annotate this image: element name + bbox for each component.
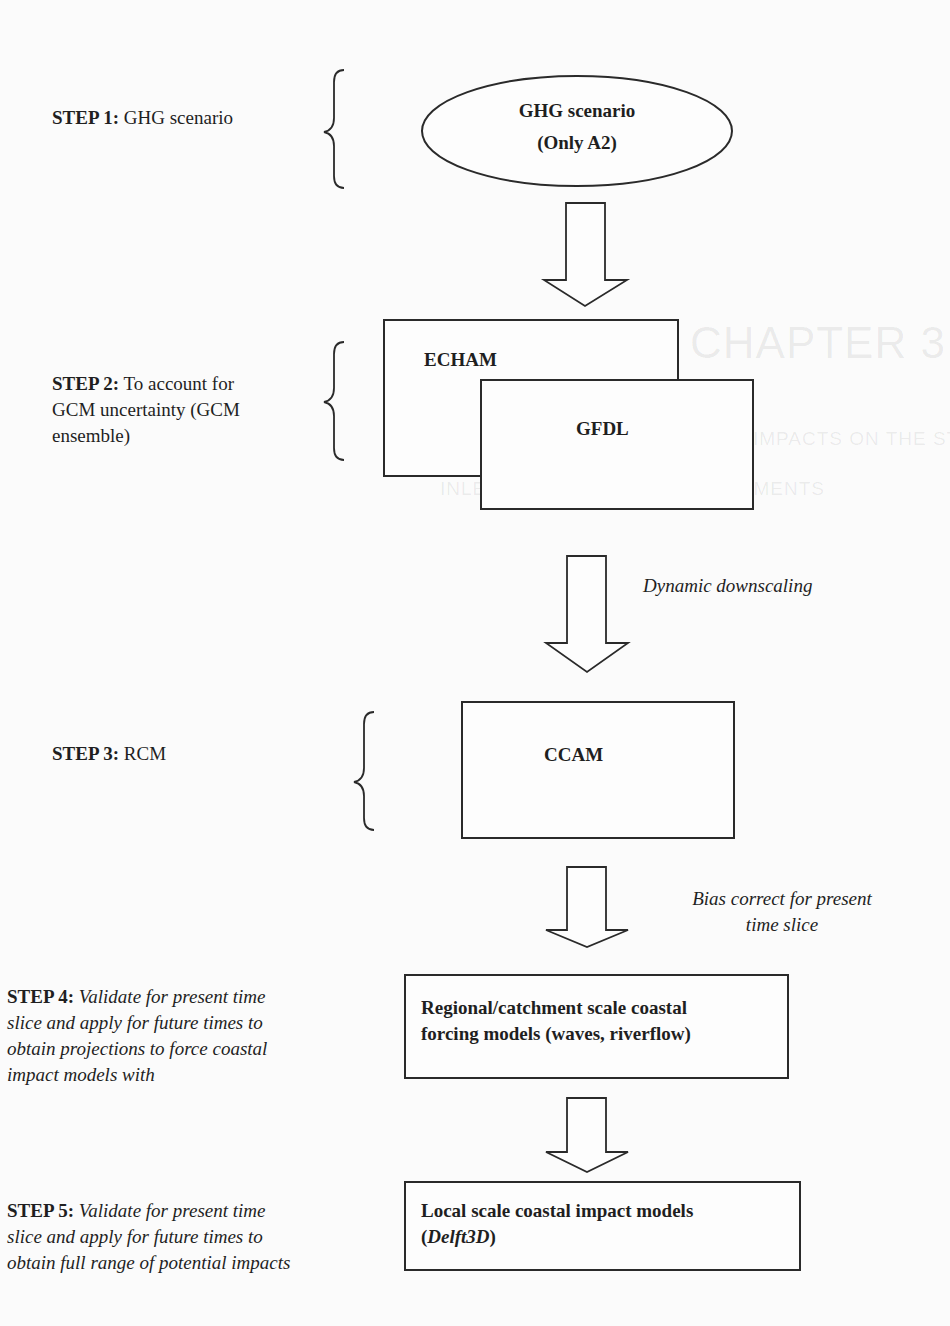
node-ccam-label: CCAM bbox=[544, 742, 603, 768]
node-ccam bbox=[462, 702, 734, 838]
arrow-regional-to-local bbox=[546, 1098, 628, 1172]
flowchart-shapes bbox=[0, 0, 950, 1326]
step-5-line-1: Validate for present time bbox=[79, 1200, 266, 1221]
step-1-label: STEP 1: bbox=[52, 107, 119, 128]
step-2-label: STEP 2: bbox=[52, 373, 119, 394]
node-regional-label: Regional/catchment scale coastal forcing… bbox=[421, 995, 691, 1047]
step-4-label: STEP 4: bbox=[7, 986, 74, 1007]
step-3: STEP 3: RCM bbox=[52, 741, 166, 767]
bias-correct-line-2: time slice bbox=[662, 912, 902, 938]
paren-close: ) bbox=[490, 1226, 496, 1247]
step-4-line-4: impact models with bbox=[7, 1062, 267, 1088]
brace-step-3 bbox=[354, 712, 374, 830]
step-4: STEP 4: Validate for present time slice … bbox=[7, 984, 267, 1088]
step-2: STEP 2: To account for GCM uncertainty (… bbox=[52, 371, 240, 449]
node-regional-line-1: Regional/catchment scale coastal bbox=[421, 995, 691, 1021]
step-4-line-1: Validate for present time bbox=[79, 986, 266, 1007]
step-4-line-3: obtain projections to force coastal bbox=[7, 1036, 267, 1062]
node-echam-label: ECHAM bbox=[424, 347, 497, 373]
arrow-rcm-to-regional bbox=[546, 867, 628, 947]
node-ghg-line-2: (Only A2) bbox=[422, 130, 732, 156]
node-ghg-label: GHG scenario (Only A2) bbox=[422, 98, 732, 156]
edge-label-bias-correct: Bias correct for present time slice bbox=[662, 886, 902, 938]
arrow-gcm-to-rcm bbox=[546, 556, 628, 672]
node-gfdl bbox=[481, 380, 753, 509]
step-2-line-2: GCM uncertainty (GCM bbox=[52, 397, 240, 423]
node-local-line-2: (Delft3D) bbox=[421, 1224, 693, 1250]
node-regional-line-2: forcing models (waves, riverflow) bbox=[421, 1021, 691, 1047]
step-2-line-3: ensemble) bbox=[52, 423, 240, 449]
step-5-line-2: slice and apply for future times to bbox=[7, 1224, 290, 1250]
node-gfdl-label: GFDL bbox=[576, 416, 629, 442]
step-1-text: GHG scenario bbox=[124, 107, 233, 128]
brace-step-2 bbox=[324, 342, 344, 460]
node-ghg-line-1: GHG scenario bbox=[422, 98, 732, 124]
step-3-label: STEP 3: bbox=[52, 743, 119, 764]
step-4-line-2: slice and apply for future times to bbox=[7, 1010, 267, 1036]
bias-correct-line-1: Bias correct for present bbox=[662, 886, 902, 912]
step-5-line-3: obtain full range of potential impacts bbox=[7, 1250, 290, 1276]
step-3-text: RCM bbox=[124, 743, 166, 764]
brace-step-1 bbox=[324, 70, 344, 188]
step-5: STEP 5: Validate for present time slice … bbox=[7, 1198, 290, 1276]
step-5-label: STEP 5: bbox=[7, 1200, 74, 1221]
step-1: STEP 1: GHG scenario bbox=[52, 105, 233, 131]
node-local-line-1: Local scale coastal impact models bbox=[421, 1198, 693, 1224]
arrow-ghg-to-gcm bbox=[544, 203, 627, 306]
edge-label-dynamic-downscaling: Dynamic downscaling bbox=[643, 573, 812, 599]
delft3d-label: Delft3D bbox=[427, 1226, 489, 1247]
step-2-line-1: To account for bbox=[123, 373, 234, 394]
node-local-label: Local scale coastal impact models (Delft… bbox=[421, 1198, 693, 1250]
